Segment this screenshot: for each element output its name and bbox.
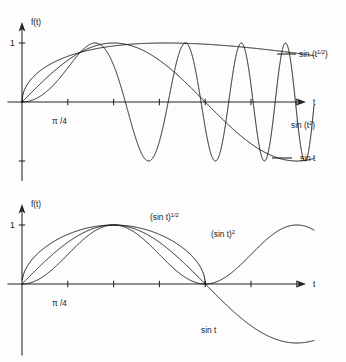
top-series-label-sin-sqrt-base: sin (t (299, 49, 318, 59)
curve-sin-t-squared (22, 225, 314, 284)
bottom-series-label-sqrt-sin-base: (sin t) (150, 212, 171, 222)
top-series-label-sin-t-squared-close: ) (312, 120, 315, 130)
bottom-series-label-sqrt-sin: (sin t)1/2 (150, 212, 179, 222)
bottom-series-label-sqrt-sin-exponent: 1/2 (171, 212, 179, 218)
bottom-series-label-sin-squared-base: (sin t) (211, 229, 232, 239)
bottom-x-axis-label: t (313, 279, 316, 289)
bottom-y-tick-label-one: 1 (10, 220, 15, 230)
bottom-series-label-sin-squared: (sin t)2 (211, 229, 235, 239)
top-series-label-sin-t-squared: sin (t2) (291, 120, 315, 130)
bottom-plot: f(t) t 1 π /4 (sin t)1/2 (sin t)2 sin t (0, 181, 346, 362)
bottom-plot-svg: f(t) t 1 π /4 (sin t)1/2 (sin t)2 sin t (0, 181, 346, 362)
top-series-label-sin-sqrt-close: ) (325, 49, 328, 59)
top-series-label-sin-sqrt-exponent: 1/2 (317, 49, 325, 55)
curve-sin-sqrt-t (22, 43, 314, 102)
top-axes (8, 22, 306, 181)
top-series-label-sin-t-squared-base: sin (t (291, 120, 310, 130)
bottom-x-tick-label-pi-4: π /4 (52, 298, 67, 308)
bottom-y-axis-label: f(t) (31, 199, 41, 209)
top-y-tick-label-one: 1 (10, 38, 15, 48)
top-series-label-sin-t: sin t (300, 153, 316, 163)
top-y-axis-label: f(t) (31, 17, 41, 27)
bottom-series-label-sin-t: sin t (201, 325, 217, 335)
figure-root: f(t) t 1 π /4 sin (t1/2) sin (t2) sin t (0, 0, 346, 362)
bottom-series-label-sin-squared-exponent: 2 (232, 229, 235, 235)
top-x-axis-label: t (313, 97, 316, 107)
curve-sqrt-sin-t (22, 225, 205, 284)
top-series-label-sin-sqrt: sin (t1/2) (299, 49, 328, 59)
top-plot: f(t) t 1 π /4 sin (t1/2) sin (t2) sin t (0, 0, 346, 181)
top-label-leaders (272, 54, 296, 158)
top-plot-svg: f(t) t 1 π /4 sin (t1/2) sin (t2) sin t (0, 0, 346, 181)
top-x-tick-label-pi-4: π /4 (52, 116, 67, 126)
